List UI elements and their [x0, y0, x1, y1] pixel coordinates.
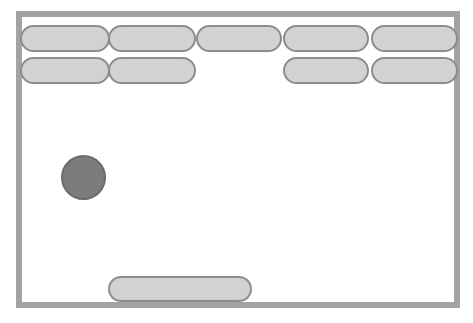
brick-r2c1 [20, 57, 110, 84]
brick-r1c5 [371, 25, 458, 52]
brick-r2c5 [371, 57, 458, 84]
game-screen[interactable] [0, 0, 473, 323]
brick-r2c4 [283, 57, 369, 84]
brick-r1c1 [20, 25, 110, 52]
brick-r2c2 [108, 57, 196, 84]
brick-r1c2 [108, 25, 196, 52]
bottom-wall [16, 302, 460, 308]
brick-r1c3 [196, 25, 282, 52]
paddle[interactable] [108, 276, 252, 302]
brick-r1c4 [283, 25, 369, 52]
top-wall [16, 11, 460, 17]
left-wall [16, 11, 22, 308]
ball [61, 155, 106, 200]
right-wall [454, 11, 460, 308]
